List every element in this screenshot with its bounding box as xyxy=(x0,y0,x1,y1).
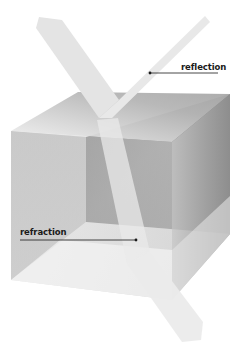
refraction-label: refraction xyxy=(20,228,67,237)
reflection-refraction-diagram xyxy=(0,0,246,343)
refraction-leader-dot xyxy=(135,239,138,242)
reflection-leader-dot xyxy=(149,72,152,75)
reflection-label: reflection xyxy=(181,63,226,72)
